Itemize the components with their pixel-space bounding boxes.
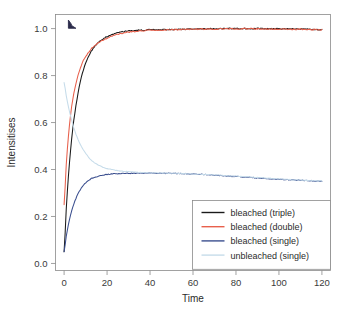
x-axis-ticks: 020406080100120 [61, 271, 329, 288]
y-tick-label: 0.6 [34, 117, 47, 128]
y-tick-label: 0.4 [34, 164, 47, 175]
x-tick-label: 120 [314, 277, 330, 288]
y-tick-label: 0.0 [34, 258, 47, 269]
y-axis-title: Intensitises [6, 117, 17, 167]
legend-label: unbleached (single) [231, 251, 310, 261]
chart-legend: bleached (triple)bleached (double)bleach… [193, 201, 331, 270]
x-tick-label: 60 [188, 277, 199, 288]
legend-label: bleached (double) [231, 222, 303, 232]
x-axis-title: Time [182, 293, 204, 304]
corner-mark-icon [68, 20, 76, 28]
line-chart: 020406080100120 0.00.20.40.60.81.0 Time … [0, 0, 346, 312]
x-tick-label: 100 [271, 277, 287, 288]
series-line-bleached-double [64, 28, 322, 204]
series-line-unbleached-single [64, 83, 322, 182]
x-tick-label: 80 [231, 277, 242, 288]
y-tick-label: 1.0 [34, 23, 47, 34]
y-tick-label: 0.2 [34, 211, 47, 222]
x-tick-label: 0 [61, 277, 66, 288]
corner-mark-shape [68, 20, 76, 28]
x-tick-label: 40 [145, 277, 156, 288]
y-axis-ticks: 0.00.20.40.60.81.0 [34, 23, 55, 269]
legend-label: bleached (single) [231, 236, 300, 246]
chart-figure: 020406080100120 0.00.20.40.60.81.0 Time … [0, 0, 346, 312]
legend-label: bleached (triple) [231, 208, 296, 218]
x-tick-label: 20 [102, 277, 113, 288]
y-tick-label: 0.8 [34, 70, 47, 81]
